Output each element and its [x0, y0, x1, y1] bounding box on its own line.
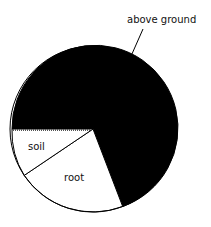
label-soil: soil — [28, 141, 45, 152]
label-above-ground: above ground — [127, 14, 196, 25]
pie-chart: above ground soil root — [0, 0, 211, 227]
label-root: root — [64, 172, 84, 183]
